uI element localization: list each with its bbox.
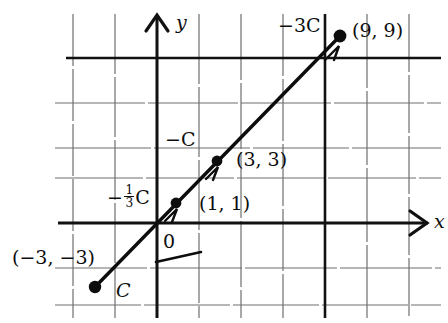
label-neg-third-c-letter: C [135,186,150,208]
slope-indicator-segment [156,252,201,262]
slope-indicator-line [156,252,201,262]
label-point-9-9: (9, 9) [352,21,403,40]
point-marker-3-3 [212,156,223,167]
fraction-one-third: 13 [124,184,134,210]
fraction-denominator: 3 [124,197,134,209]
figure-canvas: y x −3C (9, 9) −C (3, 3) −13C (1, 1) (−3… [0,0,448,323]
graph-svg [0,0,448,323]
label-point-3-3: (3, 3) [236,150,287,169]
y-axis-label: y [176,13,187,32]
label-neg-c: −C [165,130,195,149]
point-marker-9-9 [334,30,347,43]
x-axis-label: x [434,212,445,231]
label-c: C [116,281,131,300]
label-neg-third-minus-sign: − [107,186,123,208]
point-marker-neg3-neg3 [89,281,101,293]
label-neg-3c: −3C [278,16,321,35]
label-point-neg3-neg3: (−3, −3) [12,248,95,267]
label-point-1-1: (1, 1) [199,194,250,213]
point-marker-1-1 [171,198,182,209]
label-origin-zero: 0 [163,232,175,251]
fraction-numerator: 1 [124,184,134,197]
label-neg-one-third-c: −13C [107,184,150,210]
